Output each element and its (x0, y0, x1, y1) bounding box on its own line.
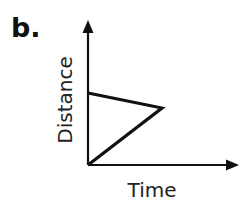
x-axis (88, 160, 239, 171)
x-axis-label: Time (128, 180, 177, 200)
data-path (88, 93, 162, 165)
panel-label: b. (11, 14, 41, 41)
x-axis-arrowhead-icon (226, 160, 239, 171)
y-axis-label: Distance (55, 56, 75, 143)
y-axis-arrowhead-icon (83, 20, 94, 33)
distance-time-figure: b. Distance Time (0, 0, 245, 210)
